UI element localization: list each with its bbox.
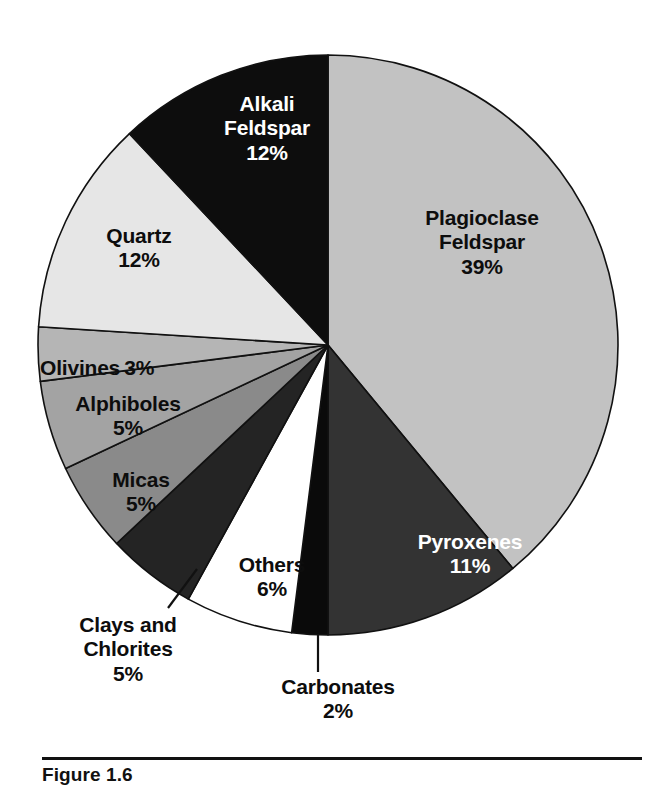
figure-caption: Figure 1.6 [42, 764, 133, 786]
caption-divider-rule [42, 757, 642, 760]
pie-slice-group [38, 55, 618, 635]
